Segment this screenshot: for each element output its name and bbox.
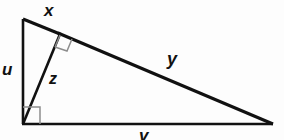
label-y: y [167,50,177,68]
triangle-diagram-svg [0,0,284,140]
hypotenuse-segment-y [58,33,273,124]
label-x: x [44,2,53,19]
label-z: z [49,71,57,87]
hypotenuse-segment-x [23,19,60,34]
label-v: v [139,127,148,140]
geometry-figure: x u z y v [0,0,284,140]
label-u: u [2,61,12,78]
